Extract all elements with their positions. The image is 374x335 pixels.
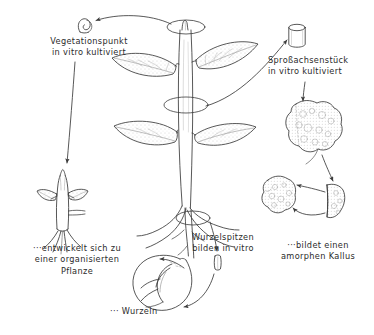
- arrow-roottip-to-vessel: [184, 274, 214, 307]
- marker-stem-ellipse: [164, 97, 208, 113]
- arrow-piece-to-piece-b: [293, 208, 325, 215]
- arrow-callus-to-piece: [322, 155, 333, 181]
- stem-segment-explant-drawing: [289, 24, 305, 47]
- arrow-plant-to-apex: [96, 16, 171, 24]
- marker-roottip-ellipse: [176, 211, 210, 225]
- root-tip-explant-drawing: [214, 255, 221, 270]
- label-vegetationspunkt: Vegetationspunkt in vitro kultiviert: [24, 36, 154, 59]
- label-amorpher-kallus: ···bildet einen amorphen Kallus: [262, 240, 374, 263]
- diagram-canvas: Vegetationspunkt in vitro kultiviert Spr…: [0, 0, 374, 335]
- label-sprossachsenstueck: Sproßachsenstück in vitro kultiviert: [268, 55, 374, 78]
- callus-piece-left-drawing: [262, 176, 296, 213]
- arrow-apex-to-plantlet: [67, 62, 75, 163]
- large-callus-drawing: [286, 101, 342, 165]
- arrow-piece-to-piece-a: [297, 185, 325, 192]
- label-wurzeln: ··· Wurzeln: [110, 306, 200, 317]
- arrow-stemseg-to-callus: [303, 82, 305, 101]
- callus-piece-right-drawing: [327, 184, 345, 217]
- label-wurzelspitzen: Wurzelspitzen bilden in vitro: [183, 232, 263, 255]
- marker-apex-ellipse: [167, 20, 205, 34]
- regenerated-plantlet-drawing: [37, 170, 88, 255]
- shoot-apex-explant-drawing: [78, 19, 92, 33]
- label-entwickelt-pflanze: ···entwickelt sich zu einer organisierte…: [2, 243, 152, 277]
